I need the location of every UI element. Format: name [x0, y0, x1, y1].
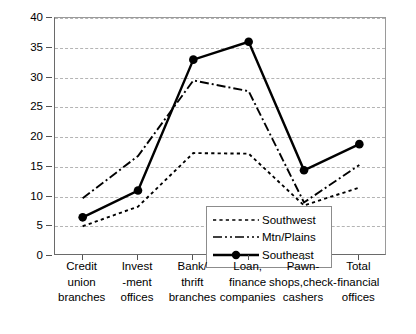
y-tick-label: 15 [3, 160, 43, 171]
x-tick-label: Totalfinancialoffices [306, 259, 410, 306]
y-tick-mark [46, 196, 52, 197]
y-tick-mark [46, 17, 52, 18]
y-tick-label: 20 [3, 131, 43, 142]
legend-item: Southwest [212, 211, 325, 229]
legend-item: Mtn/Plains [212, 229, 325, 247]
data-point-marker [78, 213, 87, 222]
y-tick-mark [46, 255, 52, 256]
y-tick-label: 10 [3, 190, 43, 201]
data-point-marker [134, 186, 143, 195]
x-axis: CreditunionbranchesInvest-mentofficesBan… [54, 259, 386, 331]
legend-swatch-southwest [212, 213, 260, 227]
y-tick-mark [46, 47, 52, 48]
x-tick-mark [358, 255, 359, 260]
data-point-marker [189, 55, 198, 64]
series-line-mtn-plains [83, 80, 360, 202]
y-tick-label: 40 [3, 12, 43, 23]
data-point-marker [355, 140, 364, 149]
x-tick-mark [82, 255, 83, 260]
legend-label-southwest: Southwest [260, 214, 316, 226]
y-tick-mark [46, 106, 52, 107]
series-line-southeast [83, 42, 360, 218]
x-tick-mark [248, 255, 249, 260]
legend-label-mtn-plains: Mtn/Plains [260, 231, 316, 243]
y-tick-mark [46, 225, 52, 226]
line-chart: 0510152025303540 Southwest Mtn/Pla [0, 0, 416, 334]
plot-area: Southwest Mtn/Plains Southeast [54, 17, 386, 255]
data-point-marker [244, 38, 253, 47]
y-tick-label: 25 [3, 101, 43, 112]
y-tick-label: 35 [3, 41, 43, 52]
y-tick-label: 5 [3, 220, 43, 231]
x-tick-mark [303, 255, 304, 260]
y-tick-label: 30 [3, 71, 43, 82]
data-point-marker [300, 166, 309, 175]
y-tick-mark [46, 166, 52, 167]
y-axis: 0510152025303540 [0, 17, 50, 255]
x-tick-mark [137, 255, 138, 260]
y-tick-mark [46, 77, 52, 78]
x-tick-mark [192, 255, 193, 260]
legend-swatch-mtn-plains [212, 230, 260, 244]
y-tick-mark [46, 136, 52, 137]
